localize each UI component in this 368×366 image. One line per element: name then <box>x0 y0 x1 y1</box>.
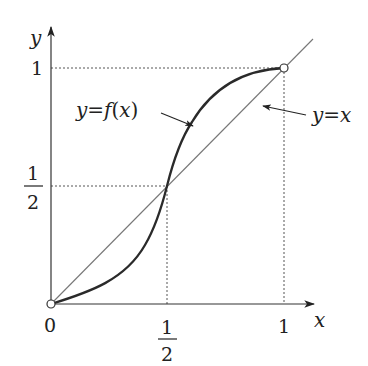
f-label-eq: = <box>87 98 104 122</box>
x-tick-half-numerator: 1 <box>161 316 173 338</box>
f-label-close: ) <box>131 98 139 122</box>
f-label-y: y <box>75 98 88 122</box>
x-tick-half: 1 2 <box>158 316 177 365</box>
identity-line <box>51 39 313 304</box>
y-tick-1: 1 <box>31 57 43 79</box>
origin-label: 0 <box>44 314 56 336</box>
identity-label-y: y <box>311 103 324 127</box>
x-tick-1: 1 <box>278 315 290 337</box>
x-tick-half-denominator: 2 <box>161 343 173 365</box>
origin-point <box>47 300 55 308</box>
f-curve-label: y=f(x) <box>75 98 138 122</box>
y-tick-half-numerator: 1 <box>27 162 39 184</box>
x-axis-label: x <box>314 308 325 332</box>
function-graph-figure: y x 0 1 1 2 1 2 1 y=f(x) y=x <box>0 0 368 366</box>
f-label-x: x <box>119 98 130 122</box>
y-axis-label: y <box>29 26 42 50</box>
f-label-arrow <box>161 113 193 126</box>
identity-label-x: x <box>340 103 351 127</box>
f-label-open: ( <box>111 98 119 122</box>
point-1-1 <box>280 64 288 72</box>
y-tick-half: 1 2 <box>24 162 43 213</box>
identity-line-label: y=x <box>311 103 351 127</box>
identity-label-eq: = <box>323 103 340 127</box>
y-tick-half-denominator: 2 <box>27 191 39 213</box>
